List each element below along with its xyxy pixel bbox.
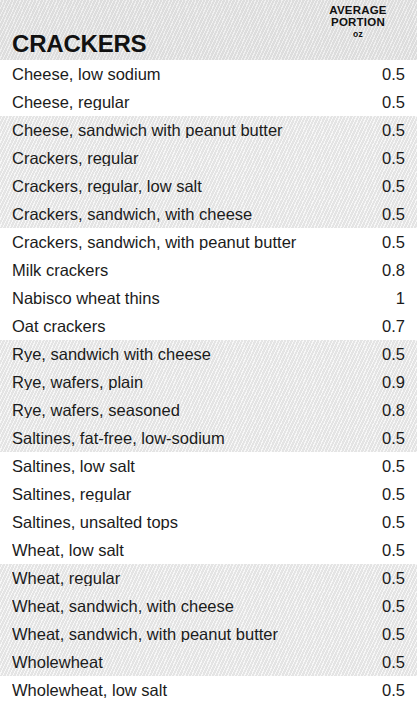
table-row: Oat crackers0.7 xyxy=(0,312,417,340)
portion-value: 0.5 xyxy=(371,206,405,223)
portion-value: 0.5 xyxy=(371,570,405,587)
portion-value: 0.5 xyxy=(371,150,405,167)
table-row: Wholewheat, low salt0.5 xyxy=(0,676,417,702)
food-name: Wheat, low salt xyxy=(12,542,371,559)
food-name: Cheese, low sodium xyxy=(12,66,371,83)
table-row: Nabisco wheat thins1 xyxy=(0,284,417,312)
portion-value: 0.5 xyxy=(371,122,405,139)
portion-value: 0.8 xyxy=(371,402,405,419)
table-row: Crackers, sandwich, with cheese0.5 xyxy=(0,200,417,228)
food-name: Wholewheat xyxy=(12,654,371,671)
food-name: Saltines, fat-free, low-sodium xyxy=(12,430,371,447)
food-name: Rye, sandwich with cheese xyxy=(12,346,371,363)
food-name: Nabisco wheat thins xyxy=(12,290,371,307)
portion-value: 0.8 xyxy=(371,262,405,279)
portion-value: 0.5 xyxy=(371,234,405,251)
portion-value: 1 xyxy=(371,290,405,307)
portion-value: 0.5 xyxy=(371,458,405,475)
food-name: Cheese, sandwich with peanut butter xyxy=(12,122,371,139)
portion-value: 0.9 xyxy=(371,374,405,391)
table-row: Cheese, sandwich with peanut butter0.5 xyxy=(0,116,417,144)
table-row: Saltines, low salt0.5 xyxy=(0,452,417,480)
portion-value: 0.5 xyxy=(371,542,405,559)
food-name: Rye, wafers, plain xyxy=(12,374,371,391)
food-name: Rye, wafers, seasoned xyxy=(12,402,371,419)
portion-column-header: AVERAGE PORTION oz xyxy=(310,4,406,39)
portion-header-line-1: AVERAGE xyxy=(310,4,406,16)
table-row: Crackers, regular0.5 xyxy=(0,144,417,172)
table-row: Milk crackers0.8 xyxy=(0,256,417,284)
portion-value: 0.5 xyxy=(371,626,405,643)
food-name: Saltines, unsalted tops xyxy=(12,514,371,531)
portion-value: 0.5 xyxy=(371,682,405,699)
table-row: Wheat, regular0.5 xyxy=(0,564,417,592)
portion-value: 0.5 xyxy=(371,66,405,83)
food-name: Milk crackers xyxy=(12,262,371,279)
table-row: Saltines, regular0.5 xyxy=(0,480,417,508)
portion-value: 0.5 xyxy=(371,94,405,111)
food-name: Wheat, sandwich, with cheese xyxy=(12,598,371,615)
table-row: Saltines, unsalted tops0.5 xyxy=(0,508,417,536)
table-row: Rye, wafers, seasoned0.8 xyxy=(0,396,417,424)
portion-value: 0.5 xyxy=(371,178,405,195)
table-row: Wholewheat0.5 xyxy=(0,648,417,676)
food-name: Oat crackers xyxy=(12,318,371,335)
table-body: Cheese, low sodium0.5Cheese, regular0.5C… xyxy=(0,60,417,702)
food-name: Crackers, sandwich, with cheese xyxy=(12,206,371,223)
portion-value: 0.5 xyxy=(371,346,405,363)
table-row: Crackers, sandwich, with peanut butter0.… xyxy=(0,228,417,256)
portion-value: 0.5 xyxy=(371,486,405,503)
portion-value: 0.5 xyxy=(371,654,405,671)
food-name: Wholewheat, low salt xyxy=(12,682,371,699)
food-name: Saltines, low salt xyxy=(12,458,371,475)
table-row: Wheat, low salt0.5 xyxy=(0,536,417,564)
table-row: Wheat, sandwich, with peanut butter0.5 xyxy=(0,620,417,648)
table-row: Rye, wafers, plain0.9 xyxy=(0,368,417,396)
table-header: CRACKERS AVERAGE PORTION oz xyxy=(0,0,417,60)
table-row: Crackers, regular, low salt0.5 xyxy=(0,172,417,200)
food-name: Crackers, regular xyxy=(12,150,371,167)
food-name: Cheese, regular xyxy=(12,94,371,111)
table-row: Wheat, sandwich, with cheese0.5 xyxy=(0,592,417,620)
food-name: Wheat, regular xyxy=(12,570,371,587)
portion-value: 0.5 xyxy=(371,598,405,615)
portion-value: 0.5 xyxy=(371,514,405,531)
table-row: Cheese, regular0.5 xyxy=(0,88,417,116)
table-row: Saltines, fat-free, low-sodium0.5 xyxy=(0,424,417,452)
food-name: Crackers, sandwich, with peanut butter xyxy=(12,234,371,251)
portion-header-line-2: PORTION xyxy=(310,16,406,28)
portion-value: 0.7 xyxy=(371,318,405,335)
food-name: Saltines, regular xyxy=(12,486,371,503)
portion-value: 0.5 xyxy=(371,430,405,447)
table-row: Cheese, low sodium0.5 xyxy=(0,60,417,88)
page-title: CRACKERS xyxy=(12,32,146,56)
food-name: Crackers, regular, low salt xyxy=(12,178,371,195)
portion-header-unit: oz xyxy=(310,30,406,39)
table-row: Rye, sandwich with cheese0.5 xyxy=(0,340,417,368)
food-name: Wheat, sandwich, with peanut butter xyxy=(12,626,371,643)
